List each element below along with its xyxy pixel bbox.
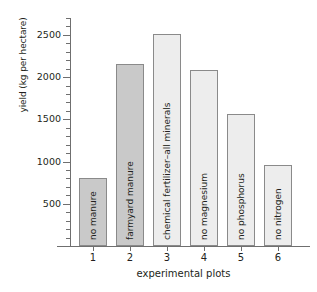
x-tick-label: 5 [226, 252, 256, 263]
bar: no phosphorus [227, 114, 255, 246]
y-tick-label: 1500 [27, 114, 61, 124]
y-tick-minor [66, 170, 70, 171]
bar: chemical fertilizer–all minerals [153, 34, 181, 246]
bar: no nitrogen [264, 165, 292, 246]
y-tick-minor [66, 136, 70, 137]
y-tick-label: 2000 [27, 72, 61, 82]
y-tick-major [63, 162, 70, 163]
y-tick-minor [66, 18, 70, 19]
y-tick-minor [66, 69, 70, 70]
y-axis-line [70, 18, 71, 247]
bar-label: no magnesium [200, 173, 209, 240]
y-tick-label: 1000 [27, 157, 61, 167]
y-tick-label: 2500 [27, 30, 61, 40]
y-tick-major [63, 204, 70, 205]
y-tick-major [63, 77, 70, 78]
y-tick-minor [66, 145, 70, 146]
y-tick-minor [66, 94, 70, 95]
y-tick-major [63, 119, 70, 120]
x-axis-line [57, 246, 310, 247]
y-tick-minor [66, 212, 70, 213]
y-tick-minor [66, 102, 70, 103]
y-tick-minor [66, 26, 70, 27]
bar-label: no manure [89, 191, 98, 240]
y-tick-minor [66, 111, 70, 112]
y-tick-minor [66, 221, 70, 222]
bar-label: chemical fertilizer–all minerals [163, 103, 172, 240]
x-tick-label: 3 [152, 252, 182, 263]
bar-label: no phosphorus [237, 173, 246, 240]
x-tick [278, 246, 279, 251]
y-tick-label: 500 [27, 199, 61, 209]
x-axis-title: experimental plots [57, 268, 310, 279]
x-tick-label: 1 [78, 252, 108, 263]
bar-label: no nitrogen [274, 188, 283, 240]
x-tick [130, 246, 131, 251]
bar: no manure [79, 178, 107, 246]
y-tick-minor [66, 128, 70, 129]
y-tick-minor [66, 86, 70, 87]
y-tick-minor [66, 238, 70, 239]
y-tick-minor [66, 195, 70, 196]
x-tick [93, 246, 94, 251]
bar-label: farmyard manure [126, 161, 135, 240]
y-tick-minor [66, 43, 70, 44]
x-tick-label: 2 [115, 252, 145, 263]
x-tick [204, 246, 205, 251]
y-tick-minor [66, 60, 70, 61]
y-tick-minor [66, 52, 70, 53]
y-tick-minor [66, 153, 70, 154]
bar: farmyard manure [116, 64, 144, 246]
y-tick-minor [66, 178, 70, 179]
x-tick-label: 4 [189, 252, 219, 263]
x-tick [167, 246, 168, 251]
x-tick [241, 246, 242, 251]
x-tick-label: 6 [263, 252, 293, 263]
y-tick-major [63, 35, 70, 36]
y-tick-minor [66, 229, 70, 230]
bar-chart: yield (kg per hectare) 50010001500200025… [0, 0, 317, 292]
bar: no magnesium [190, 70, 218, 246]
y-tick-minor [66, 187, 70, 188]
